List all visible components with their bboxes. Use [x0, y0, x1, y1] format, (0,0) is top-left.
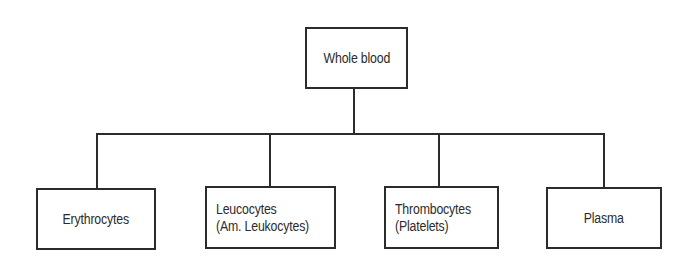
node-whole-blood: Whole blood: [305, 27, 408, 89]
horizontal-connector: [96, 133, 605, 135]
node-label: Plasma: [584, 210, 624, 227]
node-label: Thrombocytes (Platelets): [395, 201, 471, 235]
node-label: Leucocytes (Am. Leukocytes): [216, 201, 309, 235]
node-thrombocytes: Thrombocytes (Platelets): [384, 186, 499, 249]
blood-components-diagram: Whole blood Erythrocytes Leucocytes (Am.…: [0, 0, 695, 269]
trunk-connector: [353, 88, 355, 135]
connector-leucocytes: [269, 133, 271, 187]
node-erythrocytes: Erythrocytes: [36, 188, 156, 250]
node-label: Erythrocytes: [63, 211, 129, 228]
node-label: Whole blood: [323, 50, 390, 67]
connector-thrombocytes: [438, 133, 440, 187]
connector-erythrocytes: [96, 133, 98, 189]
node-plasma: Plasma: [546, 187, 662, 249]
connector-plasma: [603, 133, 605, 188]
node-leucocytes: Leucocytes (Am. Leukocytes): [205, 186, 336, 249]
